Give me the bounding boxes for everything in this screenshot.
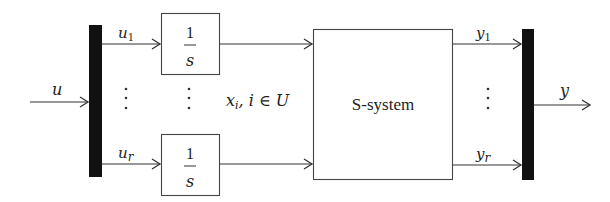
integrator-block-2: 1 s [162,135,220,196]
s-system-block: S-system [314,30,453,180]
ellipsis-integrators [188,88,191,110]
ellipsis-inputs [125,88,128,110]
integrator-denominator: s [186,51,194,70]
ellipsis-outputs [487,88,490,110]
block-diagram: u u1 ur 1 s 1 s xi, i ∈ U S-s [0,0,610,202]
integrator-block-1: 1 s [162,14,220,75]
mux-bar [522,29,534,180]
signal-label-y1: y1 [475,24,490,44]
input-label: u [52,80,62,99]
integrator-denominator: s [186,172,194,191]
integrator-numerator: 1 [186,145,194,162]
s-system-label: S-system [352,95,414,114]
demux-bar [89,25,102,177]
signal-label-u1: u1 [118,24,134,44]
signal-label-yr: yr [475,145,491,165]
output-label: y [559,81,570,100]
state-label: xi, i ∈ U [226,91,290,112]
integrator-numerator: 1 [186,24,194,41]
signal-label-ur: ur [118,144,135,164]
